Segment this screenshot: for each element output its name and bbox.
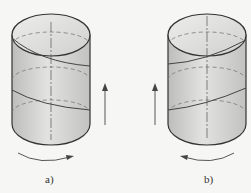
panel-label-a: a) bbox=[45, 173, 54, 185]
rotation-arrow-b-icon bbox=[180, 153, 234, 161]
panel-label-b: b) bbox=[204, 173, 213, 185]
axial-arrow-a-icon bbox=[102, 83, 108, 125]
cylinder-a bbox=[12, 14, 90, 145]
diagram-canvas bbox=[0, 0, 251, 193]
rotation-arrow-a-icon bbox=[18, 153, 74, 161]
cylinder-b bbox=[168, 14, 246, 145]
axial-arrow-b-icon bbox=[152, 83, 158, 125]
